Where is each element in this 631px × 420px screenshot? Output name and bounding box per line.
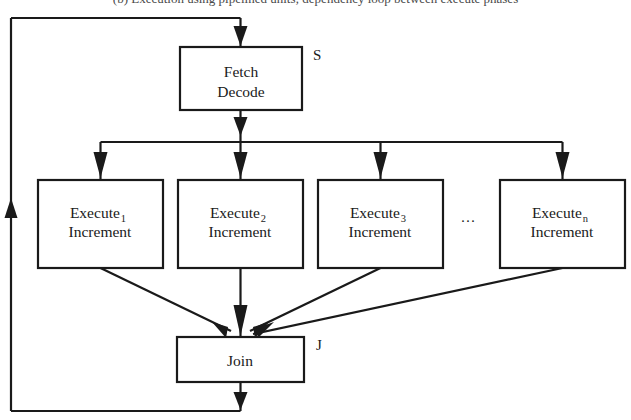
fetch-out-arrowhead	[234, 117, 248, 136]
execute-3-name: Execute	[350, 204, 400, 221]
fork-branch-n-arrowhead	[556, 152, 570, 178]
execute-n-to-join-segment	[253, 268, 563, 334]
fetch-to-fork-path	[234, 110, 248, 142]
ellipsis-icon: ···	[461, 213, 476, 229]
fetch-decode-line1: Fetch	[224, 63, 259, 80]
join-label: Join	[227, 352, 253, 369]
fetch-decode-line2: Decode	[217, 83, 264, 100]
execute-to-join-edges	[101, 268, 563, 338]
execute-n-line2: Increment	[531, 223, 595, 240]
fetch-in-arrowhead	[234, 26, 248, 46]
node-execute-1[interactable]: Execute1 Increment	[38, 180, 163, 268]
execute-3-line2: Increment	[349, 223, 413, 240]
execute-1-line2: Increment	[69, 223, 133, 240]
join-out-arrowhead	[234, 392, 248, 410]
execute-1-to-join-segment	[101, 268, 232, 331]
pipeline-diagram: Fetch Decode S Execute1 Increment Execut…	[0, 0, 631, 420]
node-join[interactable]: Join	[177, 337, 304, 382]
execute-1-to-join-arrowhead	[212, 322, 228, 338]
fork-branch-1-arrowhead	[94, 152, 108, 178]
fork-bar	[94, 142, 570, 179]
execute-1-name: Execute	[70, 204, 120, 221]
feedback-up-arrowhead	[5, 198, 18, 218]
node-execute-n[interactable]: Executen Increment	[500, 180, 625, 268]
execute-n-name: Execute	[532, 204, 582, 221]
node-execute-3[interactable]: Execute3 Increment	[318, 180, 443, 268]
fork-branch-2-arrowhead	[234, 152, 248, 178]
node-tag-s: S	[313, 47, 321, 63]
node-tag-j: J	[316, 337, 322, 353]
execute-2-name: Execute	[210, 204, 260, 221]
execute-2-line2: Increment	[209, 223, 273, 240]
execute-2-to-join-arrowhead	[234, 305, 248, 336]
node-fetch-decode[interactable]: Fetch Decode	[180, 47, 302, 110]
figure-root: (b) Execution using pipelined units; dep…	[0, 0, 631, 420]
node-execute-2[interactable]: Execute2 Increment	[178, 180, 303, 268]
fork-branch-3-arrowhead	[374, 152, 388, 178]
